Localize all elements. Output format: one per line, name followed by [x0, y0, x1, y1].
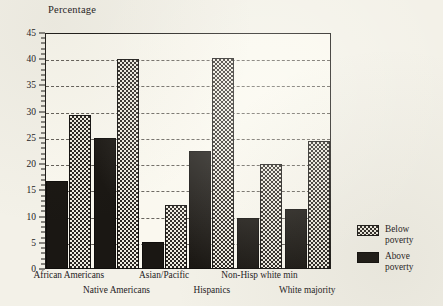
bar-group: [94, 33, 139, 269]
bar-below-poverty: [212, 58, 234, 269]
x-axis-tick-label: White majority: [279, 285, 336, 295]
bar-above-poverty: [94, 138, 116, 269]
bar-above-poverty: [189, 151, 211, 269]
x-axis-tick-label: Non-Hisp white min: [221, 270, 297, 280]
y-axis-tick-label: 10: [27, 212, 37, 222]
legend-label-line2: poverty: [385, 262, 413, 273]
checkered-swatch: [357, 225, 379, 236]
y-axis-tick-label: 40: [27, 54, 37, 64]
y-axis-tick-label: 30: [27, 107, 37, 117]
bar-group: [285, 33, 330, 269]
bar-above-poverty: [237, 218, 259, 269]
bar-group: [189, 33, 234, 269]
y-axis-tick-label: 20: [27, 159, 37, 169]
x-axis-tick-label: Asian/Pacific: [139, 270, 189, 280]
legend-item-label: Belowpoverty: [385, 224, 413, 245]
y-axis-tick-label: 25: [27, 133, 37, 143]
bar-group: [46, 33, 91, 269]
y-axis-tick-label: 35: [27, 80, 37, 90]
bar-above-poverty: [285, 209, 307, 269]
legend-item: Belowpoverty: [357, 224, 441, 245]
bar-below-poverty: [165, 205, 187, 269]
x-axis-tick-label: African Americans: [34, 270, 104, 280]
solid-dark-swatch: [357, 252, 379, 263]
chart-legend: BelowpovertyAbovepoverty: [357, 224, 441, 278]
bar-below-poverty: [260, 164, 282, 269]
bar-below-poverty: [117, 59, 139, 269]
legend-label-line1: Below: [385, 224, 413, 235]
y-axis-tick-label: 45: [27, 28, 37, 38]
legend-item-label: Abovepoverty: [385, 251, 413, 272]
y-axis-tick-label: 5: [31, 238, 36, 248]
y-axis: 051015202530354045: [0, 33, 43, 269]
y-axis-tick-label: 15: [27, 185, 37, 195]
bar-above-poverty: [142, 242, 164, 269]
x-axis-tick-label: Native Americans: [83, 285, 150, 295]
bar-below-poverty: [69, 115, 91, 269]
legend-label-line2: poverty: [385, 235, 413, 246]
x-axis-tick-label: Hispanics: [193, 285, 230, 295]
legend-item: Abovepoverty: [357, 251, 441, 272]
chart-title: Percentage: [48, 4, 96, 15]
bar-group: [142, 33, 187, 269]
bar-below-poverty: [308, 141, 330, 269]
bar-group: [237, 33, 282, 269]
bars-layer: [45, 33, 331, 269]
legend-label-line1: Above: [385, 251, 413, 262]
chart-page: Percentage 051015202530354045 African Am…: [0, 0, 443, 306]
bar-above-poverty: [46, 181, 68, 269]
